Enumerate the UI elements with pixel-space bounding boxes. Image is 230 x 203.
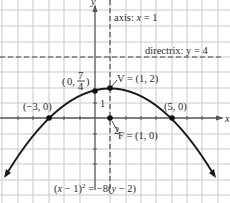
y-intercept-label: ( 0, 7 4 ) xyxy=(62,70,90,92)
paren-close: ) xyxy=(86,76,90,88)
x-axis-label: x xyxy=(224,113,230,124)
vertex-label: V = (1, 2) xyxy=(117,73,159,85)
parabola-diagram: y x 1 2 axis: x = 1 directrix: y = 4 ( 0… xyxy=(0,0,230,203)
axis-of-symmetry-label: axis: x = 1 xyxy=(114,12,158,23)
tick-label-1: 1 xyxy=(100,98,105,109)
curve-arrow-left-icon xyxy=(4,169,11,178)
paren-open: ( xyxy=(62,76,66,88)
point-y-intercept xyxy=(92,88,98,94)
y-axis-label: y xyxy=(90,0,96,7)
focus-label: F = (1, 0) xyxy=(118,130,158,142)
point-vertex xyxy=(107,85,113,91)
point-focus xyxy=(107,115,113,121)
y-axis xyxy=(93,4,98,190)
equation-label: (x − 1)2 = −8(y − 2) xyxy=(54,182,137,195)
y-int-zero: 0, xyxy=(67,76,75,87)
curve-arrow-right-icon xyxy=(209,169,216,178)
fraction-numerator: 7 xyxy=(78,70,83,81)
directrix-label: directrix: y = 4 xyxy=(145,45,209,56)
point-x-int-right xyxy=(169,115,175,121)
fraction-denominator: 4 xyxy=(78,81,84,92)
point-x-int-left xyxy=(46,115,52,121)
x-int-right-label: (5, 0) xyxy=(164,101,187,113)
x-int-left-label: (−3, 0) xyxy=(23,101,52,113)
